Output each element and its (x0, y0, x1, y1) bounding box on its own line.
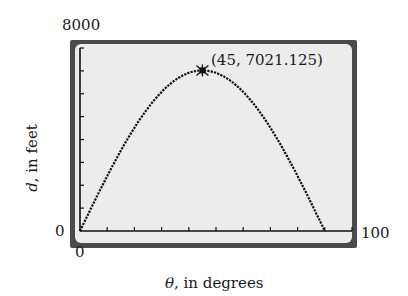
peak-annotation: (45, 7021.125) (211, 53, 323, 68)
y-min-tick-label: 0 (55, 224, 65, 239)
y-axis-units: , in feet (23, 124, 41, 182)
chart-canvas (0, 0, 408, 296)
x-axis-units: , in degrees (174, 274, 263, 292)
x-max-tick-label: 100 (361, 226, 390, 241)
y-axis-label: d, in feet (23, 124, 41, 192)
y-axis-variable: d (23, 182, 41, 192)
x-min-tick-label: 0 (75, 245, 85, 260)
x-axis-variable: θ (165, 274, 174, 292)
plot-area (75, 44, 352, 243)
y-max-tick-label: 8000 (62, 18, 100, 33)
x-axis-label: θ, in degrees (165, 276, 264, 291)
